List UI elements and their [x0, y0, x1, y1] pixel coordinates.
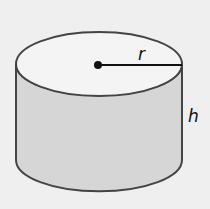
diagram-canvas: r h: [0, 0, 210, 209]
center-point: [94, 61, 102, 69]
cylinder-figure: r h: [0, 0, 210, 209]
height-label: h: [188, 106, 199, 126]
radius-label: r: [138, 44, 146, 64]
